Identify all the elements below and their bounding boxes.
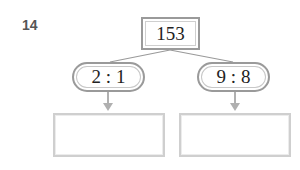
ratio-pill-left: 2 : 1 — [72, 62, 145, 92]
root-value-box: 153 — [141, 17, 200, 50]
ratio-left: 2 : 1 — [92, 66, 126, 88]
connector-left — [110, 50, 170, 62]
ratio-pill-right: 9 : 8 — [197, 62, 270, 92]
arrow-down-icon — [103, 92, 113, 111]
connector-right — [170, 50, 233, 62]
answer-box-left[interactable] — [53, 113, 165, 157]
root-value: 153 — [156, 23, 185, 45]
ratio-right: 9 : 8 — [217, 66, 251, 88]
arrow-down-icon — [230, 92, 240, 111]
answer-box-right[interactable] — [179, 113, 291, 157]
